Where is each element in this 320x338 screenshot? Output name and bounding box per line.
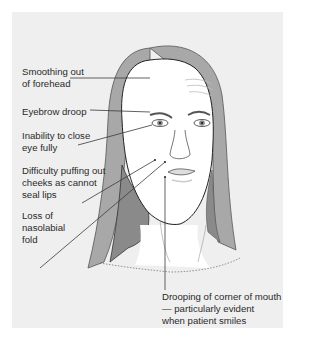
label-eyebrow: Eyebrow droop bbox=[22, 106, 87, 118]
label-forehead: Smoothing out of forehead bbox=[22, 66, 84, 90]
neck bbox=[135, 225, 210, 268]
label-mouth: Drooping of corner of mouth — particular… bbox=[162, 291, 281, 327]
label-cheeks: Difficulty puffing out cheeks as cannot … bbox=[22, 165, 105, 201]
label-eye: Inability to close eye fully bbox=[22, 130, 90, 154]
label-nasolabial: Loss of nasolabial fold bbox=[22, 210, 65, 246]
